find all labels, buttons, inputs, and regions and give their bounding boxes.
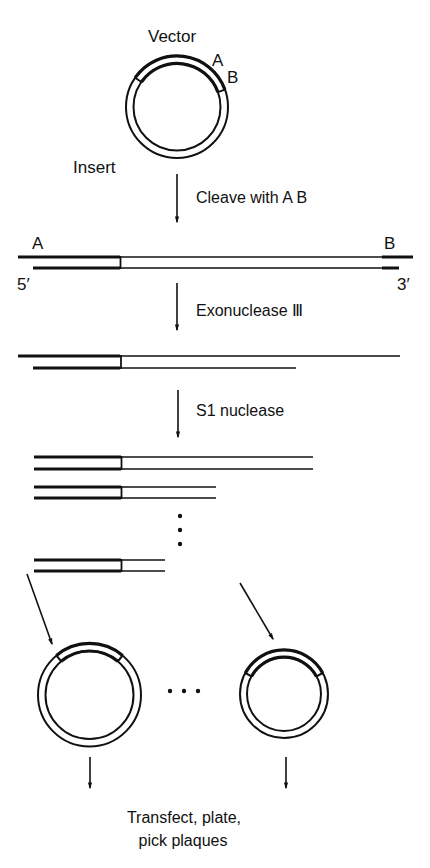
three-prime-label: 3′ (397, 275, 410, 294)
deletion-mutagenesis-diagram: Vector A B Insert Cleave with A B A B 5′… (0, 0, 430, 868)
site-a-label: A (212, 51, 224, 70)
s1-fragment-1 (34, 456, 313, 470)
final-step-line1: Transfect, plate, (127, 809, 241, 826)
five-prime-label: 5′ (17, 275, 30, 294)
step-label-s1: S1 nuclease (196, 402, 284, 419)
s1-fragment-2 (34, 486, 216, 499)
deletion-plasmid-large (38, 643, 141, 746)
horizontal-ellipsis (168, 689, 200, 693)
vector-label: Vector (148, 27, 197, 46)
ligation-arrow-right (240, 583, 273, 639)
step-label-cleave: Cleave with A B (196, 189, 307, 206)
ligation-arrow-left (27, 574, 52, 644)
deletion-plasmid-small (240, 650, 328, 738)
insert-label: Insert (73, 158, 116, 177)
site-b-label: B (227, 68, 238, 87)
starting-plasmid (126, 56, 228, 158)
final-step-line2: pick plaques (139, 832, 228, 849)
linear-site-a-label: A (32, 234, 44, 253)
linear-dna (18, 256, 413, 269)
exonuclease-product (18, 355, 400, 369)
s1-fragment-3 (34, 559, 165, 572)
step-label-exonuclease: Exonuclease Ⅲ (196, 302, 303, 319)
linear-site-b-label: B (384, 234, 395, 253)
vertical-ellipsis (178, 514, 182, 546)
